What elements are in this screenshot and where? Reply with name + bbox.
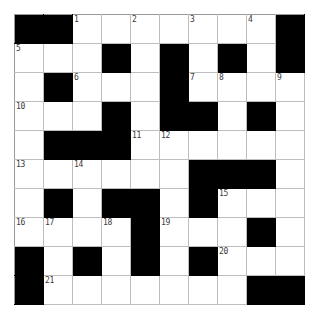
cell-letter <box>73 189 101 217</box>
letter-cell[interactable] <box>160 276 189 305</box>
letter-cell[interactable]: 17 <box>44 218 73 247</box>
letter-cell[interactable] <box>44 102 73 131</box>
block-cell <box>189 102 218 131</box>
letter-cell[interactable] <box>73 276 102 305</box>
letter-cell[interactable] <box>247 131 276 160</box>
block-cell <box>247 102 276 131</box>
crossword-row: 16171819 <box>15 218 305 247</box>
block-cell <box>218 160 247 189</box>
letter-cell[interactable]: 10 <box>15 102 44 131</box>
letter-cell[interactable] <box>247 73 276 102</box>
letter-cell[interactable] <box>102 276 131 305</box>
letter-cell[interactable] <box>102 247 131 276</box>
cell-letter <box>44 44 72 72</box>
letter-cell[interactable]: 4 <box>247 15 276 44</box>
block-cell <box>102 102 131 131</box>
letter-cell[interactable]: 8 <box>218 73 247 102</box>
letter-cell[interactable]: 3 <box>189 15 218 44</box>
letter-cell[interactable] <box>247 189 276 218</box>
letter-cell[interactable] <box>15 73 44 102</box>
letter-cell[interactable] <box>44 160 73 189</box>
letter-cell[interactable] <box>189 131 218 160</box>
letter-cell[interactable] <box>218 218 247 247</box>
letter-cell[interactable]: 6 <box>73 73 102 102</box>
letter-cell[interactable]: 12 <box>160 131 189 160</box>
letter-cell[interactable] <box>73 44 102 73</box>
cell-letter <box>131 131 159 159</box>
cell-letter <box>247 44 275 72</box>
letter-cell[interactable] <box>44 44 73 73</box>
crossword-row: 15 <box>15 189 305 218</box>
letter-cell[interactable]: 13 <box>15 160 44 189</box>
letter-cell[interactable]: 20 <box>218 247 247 276</box>
letter-cell[interactable] <box>218 102 247 131</box>
letter-cell[interactable]: 5 <box>15 44 44 73</box>
letter-cell[interactable] <box>189 276 218 305</box>
cell-letter <box>131 160 159 188</box>
letter-cell[interactable]: 9 <box>276 73 305 102</box>
letter-cell[interactable]: 18 <box>102 218 131 247</box>
letter-cell[interactable] <box>15 189 44 218</box>
letter-cell[interactable] <box>15 131 44 160</box>
letter-cell[interactable] <box>131 160 160 189</box>
letter-cell[interactable]: 14 <box>73 160 102 189</box>
cell-letter <box>218 276 246 304</box>
letter-cell[interactable] <box>160 15 189 44</box>
letter-cell[interactable] <box>131 102 160 131</box>
letter-cell[interactable] <box>160 189 189 218</box>
letter-cell[interactable] <box>131 44 160 73</box>
block-cell <box>102 44 131 73</box>
letter-cell[interactable] <box>73 189 102 218</box>
cell-letter <box>15 102 43 130</box>
letter-cell[interactable] <box>160 247 189 276</box>
letter-cell[interactable]: 2 <box>131 15 160 44</box>
letter-cell[interactable] <box>131 276 160 305</box>
letter-cell[interactable] <box>102 73 131 102</box>
cell-letter <box>218 218 246 246</box>
letter-cell[interactable] <box>276 247 305 276</box>
crossword-row: 5 <box>15 44 305 73</box>
block-cell <box>247 160 276 189</box>
letter-cell[interactable]: 21 <box>44 276 73 305</box>
letter-cell[interactable] <box>247 44 276 73</box>
letter-cell[interactable] <box>276 131 305 160</box>
block-cell <box>160 102 189 131</box>
letter-cell[interactable] <box>247 247 276 276</box>
letter-cell[interactable]: 19 <box>160 218 189 247</box>
cell-letter <box>44 247 72 275</box>
crossword-grid[interactable]: 123456789101112131415161718192021 <box>14 14 305 305</box>
letter-cell[interactable]: 15 <box>218 189 247 218</box>
letter-cell[interactable] <box>189 44 218 73</box>
letter-cell[interactable] <box>102 15 131 44</box>
cell-letter <box>218 102 246 130</box>
block-cell <box>131 218 160 247</box>
letter-cell[interactable] <box>218 15 247 44</box>
letter-cell[interactable] <box>276 102 305 131</box>
letter-cell[interactable]: 16 <box>15 218 44 247</box>
letter-cell[interactable] <box>160 160 189 189</box>
block-cell <box>102 131 131 160</box>
letter-cell[interactable] <box>276 160 305 189</box>
cell-letter <box>247 189 275 217</box>
letter-cell[interactable] <box>189 218 218 247</box>
letter-cell[interactable] <box>102 160 131 189</box>
letter-cell[interactable] <box>44 247 73 276</box>
letter-cell[interactable] <box>73 102 102 131</box>
cell-letter <box>276 247 304 275</box>
letter-cell[interactable]: 7 <box>189 73 218 102</box>
letter-cell[interactable]: 11 <box>131 131 160 160</box>
letter-cell[interactable] <box>131 73 160 102</box>
letter-cell[interactable] <box>218 276 247 305</box>
letter-cell[interactable] <box>218 131 247 160</box>
block-cell <box>276 15 305 44</box>
letter-cell[interactable] <box>276 189 305 218</box>
block-cell <box>44 131 73 160</box>
cell-letter <box>218 247 246 275</box>
block-cell <box>247 218 276 247</box>
cell-letter <box>102 160 130 188</box>
letter-cell[interactable] <box>276 218 305 247</box>
letter-cell[interactable] <box>73 218 102 247</box>
cell-letter <box>160 189 188 217</box>
block-cell <box>189 160 218 189</box>
letter-cell[interactable]: 1 <box>73 15 102 44</box>
